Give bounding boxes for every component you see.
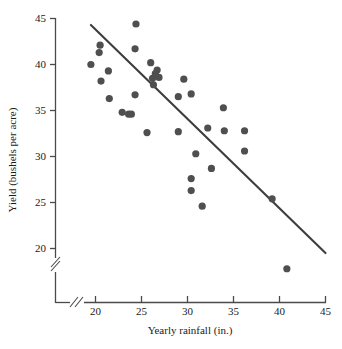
- data-point: [106, 95, 113, 102]
- y-tick-label-40: 40: [35, 58, 47, 70]
- x-tick-label-25: 25: [136, 305, 148, 317]
- y-axis: [51, 18, 60, 303]
- y-tick-label-20: 20: [35, 242, 47, 254]
- data-point: [150, 81, 157, 88]
- data-point: [97, 77, 104, 84]
- data-point: [220, 104, 227, 111]
- x-tick-label-45: 45: [320, 305, 332, 317]
- data-point: [154, 66, 161, 73]
- data-point: [208, 165, 215, 172]
- data-point: [283, 265, 290, 272]
- data-point: [175, 128, 182, 135]
- data-point: [131, 45, 138, 52]
- data-point: [199, 203, 206, 210]
- data-point: [175, 93, 182, 100]
- data-points-layer: [87, 20, 290, 272]
- y-tick-label-25: 25: [35, 196, 47, 208]
- regression-line: [91, 25, 326, 253]
- data-point: [128, 111, 135, 118]
- x-tick-label-35: 35: [228, 305, 240, 317]
- data-point: [105, 67, 112, 74]
- data-point: [188, 90, 195, 97]
- data-point: [180, 76, 187, 83]
- y-axis-title: Yield (bushels per acre): [6, 107, 19, 212]
- x-tick-group: 20 25 30 35 40 45: [90, 296, 332, 317]
- y-tick-label-30: 30: [35, 150, 47, 162]
- data-point: [119, 109, 126, 116]
- y-tick-label-45: 45: [35, 12, 47, 24]
- data-point: [147, 59, 154, 66]
- data-point: [269, 195, 276, 202]
- data-point: [188, 175, 195, 182]
- data-point: [192, 150, 199, 157]
- y-tick-group: 45 40 35 30 25 20: [35, 12, 56, 254]
- x-tick-label-20: 20: [90, 305, 102, 317]
- data-point: [87, 61, 94, 68]
- data-point: [204, 124, 211, 131]
- data-point: [221, 127, 228, 134]
- data-point: [241, 147, 248, 154]
- data-point: [97, 42, 104, 49]
- y-tick-label-35: 35: [35, 104, 47, 116]
- x-tick-label-30: 30: [182, 305, 194, 317]
- plot-canvas: 45 40 35 30 25 20 20 25 30 35 40: [0, 0, 342, 349]
- data-point: [241, 127, 248, 134]
- data-point: [132, 20, 139, 27]
- data-point: [131, 91, 138, 98]
- data-point: [188, 187, 195, 194]
- data-point: [96, 49, 103, 56]
- scatter-plot-figure: 45 40 35 30 25 20 20 25 30 35 40: [0, 0, 342, 349]
- x-axis-title: Yearly rainfall (in.): [148, 324, 233, 337]
- data-point: [155, 74, 162, 81]
- x-tick-label-40: 40: [274, 305, 286, 317]
- data-point: [143, 129, 150, 136]
